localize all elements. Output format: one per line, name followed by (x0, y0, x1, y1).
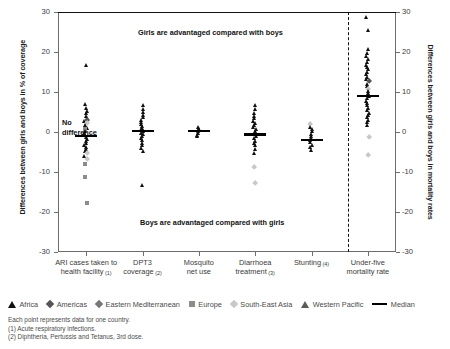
data-point (83, 162, 87, 166)
median-marker-1 (132, 130, 154, 133)
y-tick-label-r-30: 30 (402, 7, 410, 16)
data-point (309, 148, 313, 152)
y-tick-label-l-10: 10 (20, 87, 50, 96)
panel-divider-dashed (348, 12, 349, 252)
legend-item-median[interactable]: Median (372, 300, 414, 309)
legend-marker-triangle-icon (8, 301, 16, 308)
chart-root: Differences between girls and boys in % … (0, 0, 450, 349)
y-tick-label-r-10: 10 (402, 87, 410, 96)
y-tick-label-r--20: -20 (402, 207, 413, 216)
data-point (84, 63, 88, 67)
y-tick-r-30 (396, 12, 400, 13)
y-tick-label-l-30: 30 (20, 7, 50, 16)
y-tick-label-l-0: 0 (20, 127, 50, 136)
legend-marker-square-icon (189, 301, 195, 307)
legend-marker-diamond-icon (46, 300, 54, 308)
annotation-boys-advantaged: Boys are advantaged compared with girls (140, 218, 284, 227)
legend-marker-triangle-icon (301, 301, 309, 308)
legend-label: Median (391, 300, 415, 309)
data-point (252, 151, 256, 155)
data-point (140, 183, 144, 187)
legend-label: South-East Asia (240, 300, 292, 309)
y-tick-l--30 (54, 252, 58, 253)
chart-legend: AfricaAmericasEastern MediterraneanEurop… (8, 297, 442, 311)
median-marker-5 (357, 95, 379, 98)
data-point (365, 123, 369, 127)
x-tick-1 (143, 251, 144, 256)
footnote-1: (1) Acute respiratory infections. (8, 325, 143, 334)
y-tick-label-l-20: 20 (20, 47, 50, 56)
y-tick-r-0 (396, 132, 400, 133)
data-point (195, 134, 199, 138)
x-tick-5 (368, 251, 369, 256)
footnote-0: Each point represents data for one count… (8, 316, 143, 325)
zero-reference-line (58, 12, 396, 13)
legend-label: Africa (20, 300, 39, 309)
x-axis-category-5: Under-fivemortality rate (328, 258, 408, 277)
legend-item-americas[interactable]: Americas (47, 300, 87, 309)
legend-label: Western Pacific (313, 300, 364, 309)
median-marker-4 (301, 139, 323, 142)
chart-footnotes: Each point represents data for one count… (8, 316, 143, 342)
axis-spine-left (58, 12, 59, 252)
plot-background (58, 12, 396, 252)
y-tick-label-l--10: -10 (20, 167, 50, 176)
data-point (366, 28, 370, 32)
y-tick-l-10 (54, 92, 58, 93)
legend-marker-line-icon (372, 303, 387, 306)
legend-item-africa[interactable]: Africa (8, 300, 38, 309)
y-tick-r--20 (396, 212, 400, 213)
data-point (85, 201, 89, 205)
legend-item-eastern-mediterranean[interactable]: Eastern Mediterranean (96, 300, 180, 309)
legend-label: Americas (57, 300, 87, 309)
category-label-line: treatment (3) (215, 267, 295, 277)
annotation-girls-advantaged: Girls are advantaged compared with boys (138, 28, 283, 37)
category-label-line: mortality rate (328, 267, 408, 276)
axis-spine-bottom (58, 251, 396, 252)
y-tick-label-r-20: 20 (402, 47, 410, 56)
median-marker-2 (188, 130, 210, 133)
data-point (83, 175, 87, 179)
no-difference-line1: No (62, 118, 97, 128)
median-marker-3 (244, 133, 266, 136)
y-tick-r-10 (396, 92, 400, 93)
y-tick-label-r--30: -30 (402, 247, 413, 256)
y-tick-l-30 (54, 12, 58, 13)
category-note-marker: (3) (267, 270, 275, 276)
x-tick-4 (312, 251, 313, 256)
category-label-line: Under-five (328, 258, 408, 267)
x-tick-2 (199, 251, 200, 256)
y-tick-l-20 (54, 52, 58, 53)
no-difference-label: No difference (62, 118, 97, 138)
y-tick-r--30 (396, 252, 400, 253)
x-tick-0 (86, 251, 87, 256)
y-tick-r-20 (396, 52, 400, 53)
legend-item-western-pacific[interactable]: Western Pacific (301, 300, 363, 309)
y-axis-title-right: Differences between girls and boys in mo… (426, 45, 435, 215)
data-point (364, 15, 368, 19)
plot-area: 30302020101000-10-10-20-20-30-30 (58, 12, 396, 252)
y-tick-label-r--10: -10 (402, 167, 413, 176)
y-tick-l-0 (54, 132, 58, 133)
y-tick-label-l--30: -30 (20, 247, 50, 256)
y-tick-r--10 (396, 172, 400, 173)
y-tick-label-l--20: -20 (20, 207, 50, 216)
y-tick-l--20 (54, 212, 58, 213)
x-tick-3 (255, 251, 256, 256)
legend-item-europe[interactable]: Europe (189, 300, 222, 309)
y-tick-label-r-0: 0 (402, 127, 406, 136)
legend-marker-diamond-icon (230, 300, 238, 308)
legend-marker-diamond-icon (95, 300, 103, 308)
data-point (141, 149, 145, 153)
legend-label: Europe (198, 300, 222, 309)
no-difference-line2: difference (62, 128, 97, 138)
footnote-2: (2) Diphtheria, Pertussis and Tetanus, 3… (8, 333, 143, 342)
legend-item-south-east-asia[interactable]: South-East Asia (231, 300, 292, 309)
y-tick-l--10 (54, 172, 58, 173)
legend-label: Eastern Mediterranean (106, 300, 180, 309)
